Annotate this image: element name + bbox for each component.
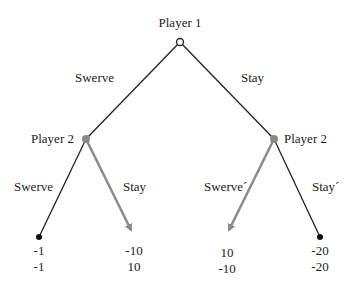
root-player-label: Player 1	[159, 16, 202, 30]
payoff-1-p1: -1	[34, 244, 45, 258]
payoff-1-p2: -1	[34, 260, 45, 274]
branch-label-swerve: Swerve	[75, 71, 114, 85]
payoff-2-p2: 10	[128, 260, 141, 274]
player2-right-label: Player 2	[284, 132, 327, 146]
player2-left-label: Player 2	[31, 132, 74, 146]
left-stay-label: Stay	[123, 180, 146, 194]
payoff-3-p1: 10	[221, 246, 234, 260]
right-stay-label: Stay´	[312, 180, 339, 194]
player2-left-node	[82, 135, 90, 143]
payoff-4-p2: -20	[311, 260, 328, 274]
payoff-4-p1: -20	[311, 244, 328, 258]
player2-right-node	[270, 135, 278, 143]
payoff-2-p1: -10	[125, 244, 142, 258]
edge-p1-swerve	[86, 42, 180, 139]
root-node	[177, 39, 184, 46]
right-swerve-label: Swerve´	[204, 180, 247, 194]
left-swerve-label: Swerve	[14, 180, 53, 194]
leaf-node-left	[36, 234, 42, 240]
edge-p1-stay	[180, 42, 274, 139]
payoff-3-p2: -10	[218, 262, 235, 276]
branch-label-stay: Stay	[241, 71, 264, 85]
leaf-node-right	[317, 234, 323, 240]
